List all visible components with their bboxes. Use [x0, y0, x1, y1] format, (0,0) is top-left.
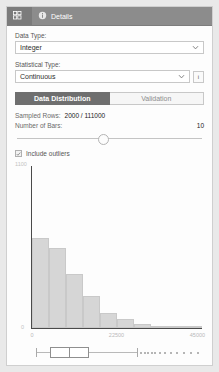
box-plot-whisker-left — [36, 352, 50, 353]
y-axis-min-label: 0 — [21, 324, 24, 330]
x-axis-ticks: 02250045000 — [31, 332, 202, 341]
box-plot-outlier — [190, 352, 192, 354]
info-button[interactable]: i — [193, 71, 204, 83]
histogram-bar — [100, 313, 117, 328]
header-tab-details-label: Details — [51, 13, 72, 20]
include-outliers-row[interactable]: Include outliers — [15, 150, 204, 157]
chevron-down-icon — [178, 73, 185, 80]
statistical-type-value: Continuous — [20, 73, 55, 80]
number-of-bars-label: Number of Bars: — [15, 122, 62, 129]
histogram-bar — [49, 248, 66, 328]
box-plot-outlier — [197, 352, 199, 354]
chevron-down-icon — [192, 44, 199, 51]
number-of-bars-row: Number of Bars: 10 — [15, 122, 204, 129]
statistical-type-row: Continuous i — [15, 70, 204, 83]
box-plot — [31, 345, 202, 361]
details-panel: Details Data Type: Integer Statistical T… — [6, 6, 213, 366]
x-axis-tick-label: 45000 — [190, 332, 205, 338]
box-plot-whisker-right — [89, 352, 137, 353]
distribution-tab-bar: Data Distribution Validation — [15, 92, 204, 105]
histogram-bar — [83, 296, 100, 328]
tab-data-distribution[interactable]: Data Distribution — [15, 92, 110, 105]
sampled-rows-row: Sampled Rows: 2000 / 111000 — [15, 112, 204, 119]
data-type-row: Integer — [15, 41, 204, 54]
histogram-chart: 1100 0 02250045000 — [15, 161, 204, 343]
box-plot-cap-max — [137, 348, 138, 357]
header-tab-grid[interactable] — [7, 7, 32, 25]
sampled-rows-value: 2000 / 111000 — [65, 112, 106, 119]
box-plot-median — [69, 347, 70, 358]
panel-body: Data Type: Integer Statistical Type: Con… — [7, 26, 212, 365]
slider-track — [17, 138, 202, 139]
histogram-plot-area — [31, 166, 202, 329]
box-plot-outlier — [159, 352, 161, 354]
box-plot-outlier — [164, 352, 166, 354]
box-plot-outlier — [144, 352, 146, 354]
box-plot-outlier — [151, 352, 153, 354]
number-of-bars-value: 10 — [197, 122, 204, 129]
histogram-bar — [66, 274, 83, 328]
header-tab-details[interactable]: Details — [32, 7, 78, 25]
include-outliers-label: Include outliers — [26, 150, 70, 157]
info-circle-icon — [38, 11, 47, 21]
number-of-bars-slider[interactable] — [15, 133, 204, 144]
x-axis-tick-label: 22500 — [109, 332, 124, 338]
box-plot-outlier — [176, 352, 178, 354]
statistical-type-label: Statistical Type: — [15, 61, 204, 68]
data-type-select[interactable]: Integer — [15, 41, 204, 54]
y-axis-max-label: 1100 — [15, 161, 27, 167]
include-outliers-checkbox[interactable] — [15, 150, 22, 157]
histogram-bar — [134, 324, 151, 328]
histogram-bar — [151, 326, 168, 328]
histogram-bars — [32, 166, 202, 328]
tab-validation[interactable]: Validation — [110, 92, 205, 105]
box-plot-outlier — [183, 352, 185, 354]
statistical-type-select[interactable]: Continuous — [15, 70, 190, 83]
histogram-bar — [185, 326, 202, 328]
data-type-value: Integer — [20, 44, 42, 51]
box-plot-outlier — [170, 352, 172, 354]
sampled-rows-label: Sampled Rows: — [15, 112, 61, 119]
slider-thumb[interactable] — [98, 134, 109, 145]
histogram-bar — [32, 238, 49, 328]
box-plot-outlier — [154, 352, 156, 354]
box-plot-outlier — [140, 352, 142, 354]
histogram-bar — [168, 326, 185, 328]
panel-header: Details — [7, 7, 212, 26]
grid-icon — [13, 11, 22, 21]
box-plot-cap-min — [36, 348, 37, 357]
data-type-label: Data Type: — [15, 32, 204, 39]
box-plot-outlier — [147, 352, 149, 354]
x-axis-tick-label: 0 — [30, 332, 33, 338]
histogram-bar — [117, 319, 134, 328]
